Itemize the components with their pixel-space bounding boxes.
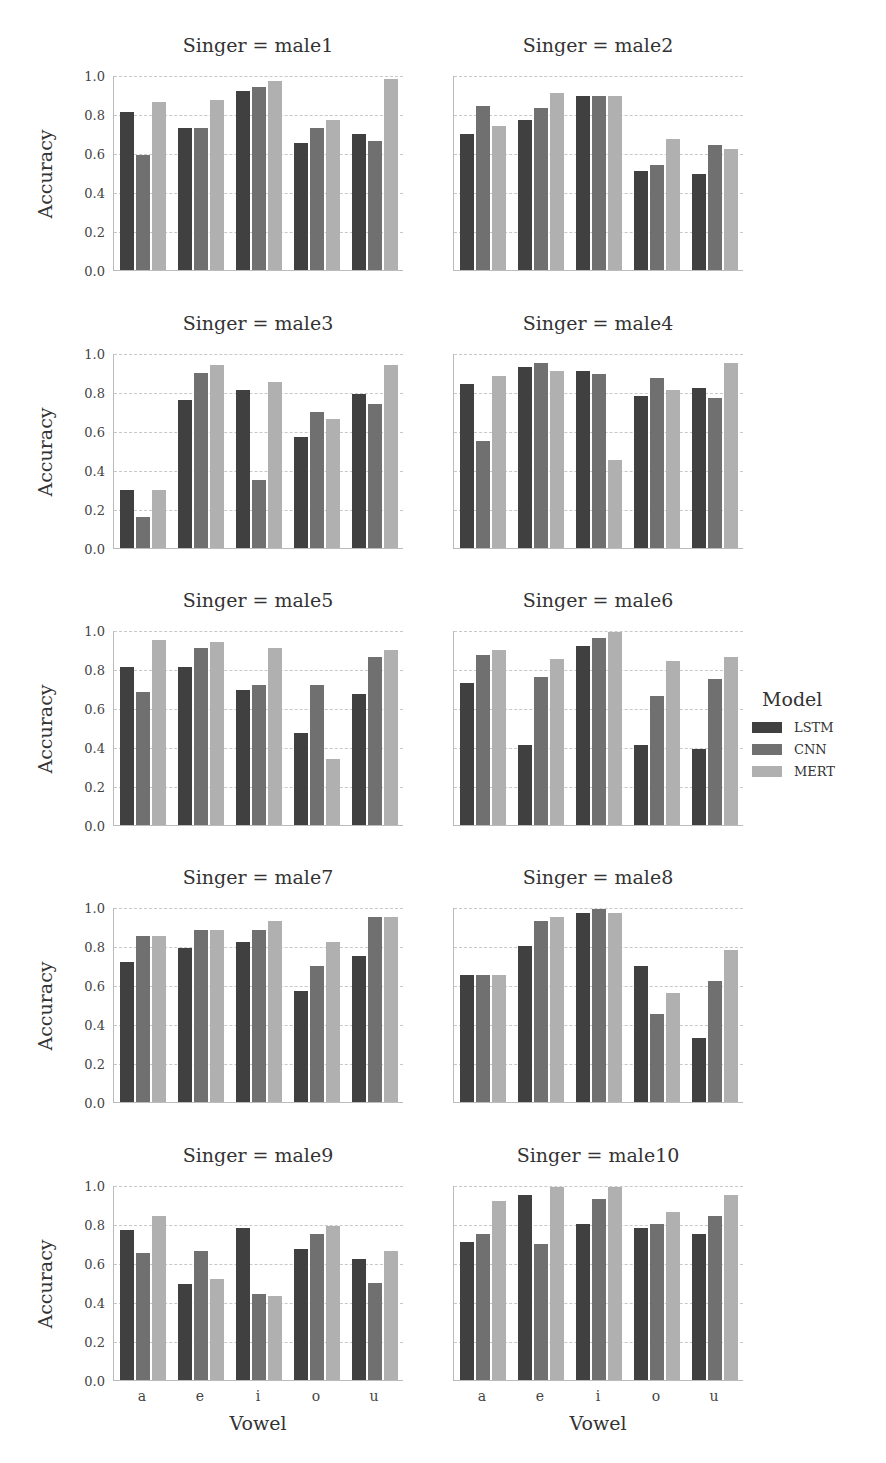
y-tick-label: 0.8 [73,1218,105,1233]
bar-mert-u [724,657,738,825]
bar-cnn-a [136,1253,150,1380]
bar-cnn-a [136,692,150,825]
bar-cnn-e [194,648,208,825]
legend-swatch-icon [752,766,782,777]
bar-mert-a [492,376,506,548]
facet-panel: Singer = male6 [453,631,743,826]
y-tick-label: 0.4 [73,1296,105,1311]
bar-lstm-u [352,1259,366,1380]
bar-lstm-i [576,913,590,1102]
legend-item-cnn: CNN [752,738,835,760]
bar-cnn-o [650,696,664,825]
bar-mert-o [326,120,340,270]
y-tick-label: 0.6 [73,979,105,994]
bar-lstm-e [518,1195,532,1380]
panel-title: Singer = male1 [113,34,403,56]
panel-title: Singer = male10 [453,1144,743,1166]
bar-mert-u [384,365,398,548]
bar-lstm-e [178,400,192,548]
bar-lstm-o [634,745,648,825]
gridline [114,1186,403,1187]
plot-area [113,908,403,1103]
bar-mert-i [268,648,282,825]
bar-lstm-i [236,390,250,548]
facet-panel: Singer = male50.00.20.40.60.81.0Accuracy [113,631,403,826]
bar-lstm-e [178,128,192,270]
bar-lstm-u [352,694,366,825]
legend-label: LSTM [794,720,834,735]
bar-lstm-e [178,667,192,825]
bar-mert-o [326,942,340,1102]
y-tick-label: 1.0 [73,1179,105,1194]
y-tick-label: 0.4 [73,1018,105,1033]
bar-mert-e [550,93,564,270]
bar-mert-i [608,96,622,270]
bar-cnn-o [310,412,324,549]
bar-mert-i [268,382,282,548]
bar-cnn-i [252,1294,266,1380]
bar-lstm-u [692,388,706,548]
bar-mert-a [152,1216,166,1380]
bar-mert-a [492,1201,506,1380]
gridline [114,908,403,909]
bar-mert-i [608,460,622,548]
bar-lstm-a [460,975,474,1102]
gridline [114,354,403,355]
bar-mert-o [666,139,680,270]
plot-area [113,1186,403,1381]
bar-lstm-u [352,956,366,1102]
bar-mert-e [210,1279,224,1380]
bar-lstm-i [576,96,590,270]
bar-lstm-i [236,690,250,825]
facet-panel: Singer = male70.00.20.40.60.81.0Accuracy [113,908,403,1103]
bar-cnn-i [252,87,266,270]
bar-mert-u [384,650,398,826]
bar-mert-e [550,371,564,548]
bar-mert-a [152,490,166,549]
y-tick-label: 0.4 [73,741,105,756]
bar-cnn-i [252,685,266,825]
panel-title: Singer = male7 [113,866,403,888]
bar-cnn-i [592,1199,606,1380]
bar-mert-i [608,913,622,1102]
bar-cnn-e [534,921,548,1102]
legend-swatch-icon [752,744,782,755]
bar-cnn-u [708,981,722,1102]
bar-cnn-o [650,1224,664,1380]
bar-cnn-o [310,128,324,270]
x-axis-label: Vowel [453,1412,743,1434]
bar-lstm-e [178,948,192,1102]
panel-title: Singer = male5 [113,589,403,611]
y-tick-label: 0.2 [73,1057,105,1072]
bar-cnn-u [368,404,382,548]
bar-mert-o [666,661,680,825]
bar-cnn-u [368,1283,382,1381]
y-axis-label: Accuracy [34,129,56,218]
bar-lstm-e [518,745,532,825]
bar-cnn-a [476,1234,490,1380]
y-tick-label: 0.4 [73,186,105,201]
bar-mert-o [666,1212,680,1380]
bar-lstm-u [352,394,366,548]
plot-area [113,631,403,826]
gridline [454,354,743,355]
bar-lstm-a [460,134,474,271]
bar-lstm-u [692,174,706,270]
bar-cnn-e [534,108,548,270]
bar-mert-e [210,930,224,1102]
y-tick-label: 1.0 [73,901,105,916]
y-tick-label: 0.0 [73,264,105,279]
bar-cnn-o [310,966,324,1103]
bar-cnn-u [708,145,722,270]
bar-lstm-e [178,1284,192,1380]
bar-cnn-o [650,378,664,548]
bar-cnn-a [136,517,150,548]
bar-mert-i [608,1187,622,1380]
bar-cnn-o [650,165,664,270]
bar-mert-a [152,640,166,825]
legend-item-lstm: LSTM [752,716,835,738]
bar-cnn-a [476,441,490,548]
bar-mert-u [384,1251,398,1380]
bar-lstm-o [294,143,308,270]
bar-cnn-o [650,1014,664,1102]
